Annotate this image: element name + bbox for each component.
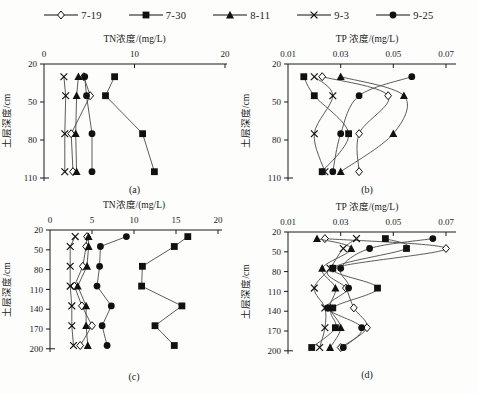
series-7-30 xyxy=(300,73,352,175)
svg-text:10: 10 xyxy=(130,215,140,225)
svg-text:170: 170 xyxy=(268,326,282,336)
svg-text:50: 50 xyxy=(272,97,282,107)
filled-circle-icon xyxy=(376,9,410,21)
svg-text:(b): (b) xyxy=(361,184,373,196)
svg-text:50: 50 xyxy=(28,97,38,107)
svg-text:140: 140 xyxy=(268,306,282,316)
svg-text:20: 20 xyxy=(214,215,224,225)
svg-text:80: 80 xyxy=(272,135,282,145)
series-7-19 xyxy=(71,233,95,350)
legend-label: 7-30 xyxy=(166,10,186,21)
svg-text:土层深度/cm: 土层深度/cm xyxy=(1,93,12,148)
filled-square-icon xyxy=(129,9,163,21)
svg-text:10: 10 xyxy=(130,49,140,59)
series-7-30 xyxy=(138,233,191,349)
svg-text:200: 200 xyxy=(268,346,282,356)
legend: 7-19 7-30 8-11 9-3 9-25 xyxy=(0,6,478,24)
series-8-11 xyxy=(313,234,355,351)
legend-label: 7-19 xyxy=(81,10,101,21)
legend-label: 8-11 xyxy=(250,10,270,21)
svg-text:80: 80 xyxy=(272,267,282,277)
svg-text:0.07: 0.07 xyxy=(438,217,454,227)
svg-text:(a): (a) xyxy=(129,184,140,196)
legend-item-9-3: 9-3 xyxy=(297,9,349,21)
svg-text:140: 140 xyxy=(30,304,44,314)
svg-text:(c): (c) xyxy=(128,371,139,383)
svg-text:0: 0 xyxy=(42,49,47,59)
series-9-25 xyxy=(329,73,415,175)
svg-text:110: 110 xyxy=(30,285,44,295)
subplot-b-chart: TP 浓度/(mg/L)0.010.030.050.07205080110土层深… xyxy=(239,28,478,198)
svg-text:20: 20 xyxy=(272,59,282,69)
svg-text:110: 110 xyxy=(268,173,282,183)
axis-labels: TN浓度/(mg/L)05101520205080110140170200土层深… xyxy=(1,199,223,383)
legend-item-9-25: 9-25 xyxy=(376,9,433,21)
filled-triangle-icon xyxy=(213,9,247,21)
series-7-30 xyxy=(102,73,158,175)
series-9-25 xyxy=(324,235,436,351)
svg-text:土层深度/cm: 土层深度/cm xyxy=(240,264,251,319)
svg-text:TN浓度/(mg/L): TN浓度/(mg/L) xyxy=(103,199,165,211)
figure: 7-19 7-30 8-11 9-3 9-25 TN浓度/(mg/L)01020… xyxy=(0,0,478,394)
axes xyxy=(40,64,227,181)
subplot-a-chart: TN浓度/(mg/L)01020205080110土层深度/cm(a) xyxy=(0,28,239,198)
series-9-3 xyxy=(311,235,360,351)
open-diamond-icon xyxy=(44,9,78,21)
series-9-3 xyxy=(311,73,336,175)
legend-label: 9-25 xyxy=(413,10,433,21)
subplot-c-chart: TN浓度/(mg/L)05101520205080110140170200土层深… xyxy=(0,198,239,394)
series-9-3 xyxy=(61,73,70,175)
axes xyxy=(284,64,456,181)
svg-text:20: 20 xyxy=(28,59,38,69)
series-8-11 xyxy=(72,73,83,176)
svg-text:80: 80 xyxy=(28,135,38,145)
svg-text:15: 15 xyxy=(172,215,182,225)
svg-text:0.07: 0.07 xyxy=(438,49,454,59)
svg-text:0.05: 0.05 xyxy=(385,49,401,59)
subplot-d-chart: TP 浓度/(mg/L)0.010.030.050.07205080110140… xyxy=(239,198,478,394)
series-7-19 xyxy=(68,73,94,176)
svg-text:110: 110 xyxy=(24,173,38,183)
svg-text:(d): (d) xyxy=(361,369,373,381)
series-9-25 xyxy=(94,233,130,349)
svg-text:20: 20 xyxy=(221,49,231,59)
svg-text:土层深度/cm: 土层深度/cm xyxy=(1,262,12,317)
svg-text:TP 浓度/(mg/L): TP 浓度/(mg/L) xyxy=(336,201,399,213)
svg-text:50: 50 xyxy=(272,247,282,257)
svg-text:20: 20 xyxy=(34,225,44,235)
svg-text:0.05: 0.05 xyxy=(385,217,401,227)
series-9-3 xyxy=(67,233,79,349)
svg-text:110: 110 xyxy=(268,287,282,297)
svg-text:0.03: 0.03 xyxy=(333,49,349,59)
svg-text:0: 0 xyxy=(48,215,53,225)
svg-text:TN浓度/(mg/L): TN浓度/(mg/L) xyxy=(103,33,165,45)
svg-text:200: 200 xyxy=(30,344,44,354)
svg-text:170: 170 xyxy=(30,324,44,334)
legend-item-7-19: 7-19 xyxy=(44,9,101,21)
svg-text:80: 80 xyxy=(34,265,44,275)
svg-text:土层深度/cm: 土层深度/cm xyxy=(240,93,251,148)
legend-label: 9-3 xyxy=(334,10,349,21)
svg-text:50: 50 xyxy=(34,245,44,255)
legend-item-8-11: 8-11 xyxy=(213,9,270,21)
svg-text:0.03: 0.03 xyxy=(333,217,349,227)
cross-icon xyxy=(297,9,331,21)
svg-text:0.01: 0.01 xyxy=(280,217,296,227)
svg-text:TP 浓度/(mg/L): TP 浓度/(mg/L) xyxy=(336,33,399,45)
svg-text:5: 5 xyxy=(90,215,95,225)
svg-text:20: 20 xyxy=(272,227,282,237)
legend-item-7-30: 7-30 xyxy=(129,9,186,21)
axis-labels: TN浓度/(mg/L)01020205080110土层深度/cm(a) xyxy=(1,33,230,196)
svg-text:0.01: 0.01 xyxy=(280,49,296,59)
series-9-25 xyxy=(81,73,95,175)
